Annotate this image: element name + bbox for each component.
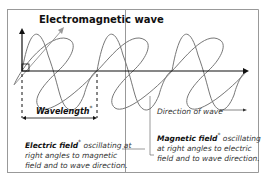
magnetic-wave (14, 38, 247, 109)
electric-wave (22, 34, 247, 110)
magnetic-field-term: Magnetic field (157, 134, 217, 143)
direction-label: Direction of wave (157, 107, 223, 116)
wavelength-label: Wavelength* (36, 104, 92, 116)
electric-field-caption: Electric field* oscillating at right ang… (25, 137, 135, 171)
diagram-title: Electromagnetic wave (39, 14, 164, 25)
magnetic-field-caption: Magnetic field* oscillating at right ang… (157, 130, 265, 164)
electric-field-term: Electric field (25, 141, 78, 150)
